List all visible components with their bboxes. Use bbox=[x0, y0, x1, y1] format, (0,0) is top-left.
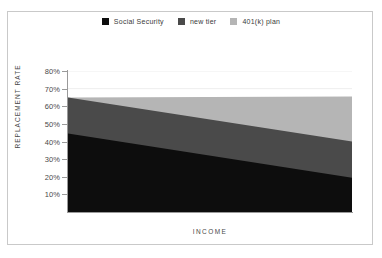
stacked-area-chart-figure: Social Security new tier 401(k) plan 80%… bbox=[0, 0, 382, 258]
y-axis-tick-label: 40% bbox=[2, 138, 60, 147]
y-axis-tick-mark bbox=[62, 142, 67, 143]
area-series-group bbox=[68, 97, 352, 212]
x-axis-line bbox=[67, 212, 353, 213]
x-axis-title: INCOME bbox=[68, 228, 352, 235]
y-axis-tick-mark bbox=[62, 177, 67, 178]
y-axis-tick-mark bbox=[62, 124, 67, 125]
y-axis-tick-label: 60% bbox=[2, 102, 60, 111]
y-axis-tick-label: 50% bbox=[2, 120, 60, 129]
y-axis-tick-mark bbox=[62, 159, 67, 160]
y-axis-tick-mark bbox=[62, 194, 67, 195]
y-axis-tick-mark bbox=[62, 71, 67, 72]
plot-area bbox=[68, 71, 352, 212]
y-axis-tick-mark bbox=[62, 89, 67, 90]
y-axis-tick-mark bbox=[62, 106, 67, 107]
y-axis-tick-label: 30% bbox=[2, 155, 60, 164]
y-axis-title: REPLACEMENT RATE bbox=[14, 57, 21, 157]
plot-wrapper: 80%70%60%50%40%30%20%10% REPLACEMENT RAT… bbox=[0, 0, 382, 258]
y-axis-tick-label: 20% bbox=[2, 173, 60, 182]
y-axis-line bbox=[67, 70, 68, 213]
y-axis-tick-label: 80% bbox=[2, 67, 60, 76]
stacked-area-svg bbox=[68, 71, 352, 212]
y-axis-tick-label: 70% bbox=[2, 85, 60, 94]
y-axis-tick-label: 10% bbox=[2, 190, 60, 199]
